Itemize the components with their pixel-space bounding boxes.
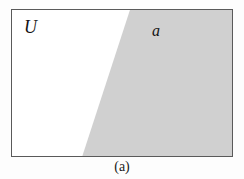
figure-caption: (a): [0, 160, 244, 174]
venn-diagram-figure: U a (a): [0, 0, 244, 179]
universe-label: U: [24, 18, 37, 36]
set-a-shaded-region: [12, 10, 232, 156]
universe-rectangle: U a: [11, 9, 233, 157]
set-a-label: a: [152, 23, 160, 39]
